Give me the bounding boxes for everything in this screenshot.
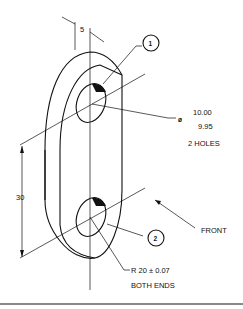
- front-view-label: FRONT: [201, 226, 227, 235]
- part-outer-outline: [45, 52, 122, 258]
- front-arrow-head: [155, 200, 161, 205]
- thickness-dimension: 5: [80, 25, 84, 34]
- lower-hole-shadow: [92, 198, 106, 206]
- isometric-drawing: 5 30 1 ø 10.00 9.95 2 HOLES FRONT 2 R 20…: [0, 0, 243, 309]
- thickness-arrow-left: [62, 17, 75, 24]
- arrow-head-top: [20, 146, 24, 153]
- bottom-rule: [0, 303, 243, 305]
- front-arrow-line: [155, 200, 195, 228]
- callout-2-leader: [107, 224, 143, 236]
- upper-hole-centerline: [20, 74, 145, 145]
- diameter-symbol: ø: [178, 116, 182, 123]
- callout-1-label: 1: [149, 40, 153, 47]
- hole-diameter-lower: 9.95: [198, 122, 213, 131]
- radius-note: BOTH ENDS: [131, 281, 175, 290]
- hole-diameter-leader: [92, 104, 168, 118]
- lower-hole-centerline: [20, 188, 145, 258]
- upper-hole-shadow: [92, 84, 106, 92]
- callout-2-label: 2: [154, 235, 158, 242]
- radius-dimension: R 20 ± 0.07: [131, 266, 170, 275]
- hole-count: 2 HOLES: [188, 139, 220, 148]
- center-distance-dimension: 30: [16, 193, 24, 202]
- radius-leader: [90, 217, 124, 270]
- hole-diameter-upper: 10.00: [193, 108, 212, 117]
- part-front-face: [60, 65, 122, 258]
- lower-hole: [71, 193, 111, 240]
- thickness-arrow-right: [90, 32, 104, 42]
- upper-hole: [71, 79, 111, 126]
- callout-1-leader: [103, 46, 136, 84]
